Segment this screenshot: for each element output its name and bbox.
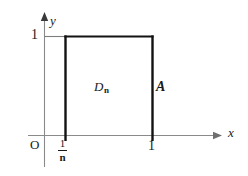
segment-label-a: A bbox=[156, 80, 165, 94]
math-figure: y x O 1 1 n 1 Dn A bbox=[0, 0, 248, 176]
y-tick-label-1: 1 bbox=[31, 28, 38, 42]
region-boundary-group bbox=[66, 35, 153, 141]
region-label-dn: Dn bbox=[94, 80, 109, 95]
x-tick-label-one-over-n: 1 n bbox=[58, 138, 67, 163]
fraction-denominator: n bbox=[58, 151, 66, 163]
x-tick-label-1: 1 bbox=[148, 139, 155, 153]
y-axis-label: y bbox=[50, 14, 56, 27]
region-label-base: D bbox=[94, 79, 103, 94]
x-axis-arrowhead bbox=[213, 132, 222, 139]
origin-label: O bbox=[30, 138, 39, 151]
x-axis-label: x bbox=[228, 126, 234, 139]
region-label-subscript: n bbox=[104, 85, 109, 95]
y-axis-arrowhead bbox=[41, 12, 48, 21]
fraction-numerator: 1 bbox=[59, 138, 67, 150]
